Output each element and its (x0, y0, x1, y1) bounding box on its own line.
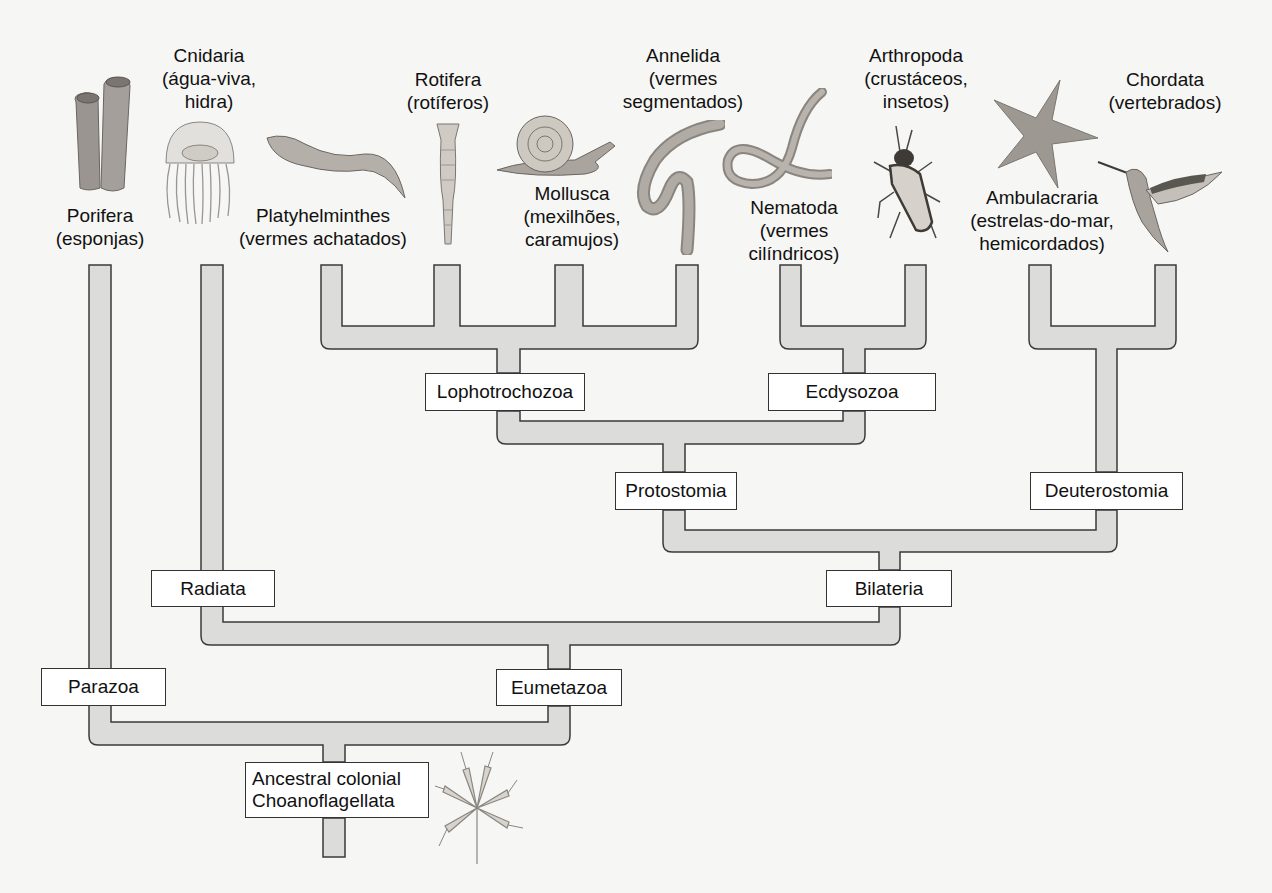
clade-label: Deuterostomia (1045, 480, 1169, 502)
branch-ecdysozoa-comb (780, 265, 926, 373)
taxon-name: Porifera (56, 205, 145, 228)
taxon-common-name: (vermes (749, 220, 840, 243)
taxon-label-ambulacraria: Ambulacraria (estrelas-do-mar, hemicorda… (970, 187, 1114, 255)
ancestor-label-line1: Ancestral colonial (252, 768, 401, 790)
clade-box-ancestor: Ancestral colonial Choanoflagellata (245, 762, 429, 818)
branch-bilateria-join (663, 510, 1117, 570)
clade-label: Bilateria (855, 578, 924, 600)
taxon-common-name: cilíndricos) (749, 243, 840, 266)
clade-box-lophotrochozoa: Lophotrochozoa (425, 373, 585, 411)
taxon-common-name: caramujos) (523, 229, 620, 252)
clade-label: Protostomia (625, 480, 726, 502)
jellyfish-icon (150, 118, 250, 228)
taxon-common-name: (água-viva, (162, 68, 256, 91)
taxon-label-porifera: Porifera (esponjas) (56, 205, 145, 251)
flatworm-icon (265, 130, 410, 210)
ancestor-label-line2: Choanoflagellata (252, 790, 395, 812)
taxon-common-name: (estrelas-do-mar, (970, 210, 1114, 233)
taxon-common-name: (mexilhões, (523, 206, 620, 229)
branch-protostomia-join (497, 411, 865, 472)
sponge-icon (68, 70, 143, 195)
taxon-common-name: (rotíferos) (407, 92, 489, 115)
clade-box-ecdysozoa: Ecdysozoa (768, 373, 936, 411)
roundworm-icon (722, 88, 832, 193)
snail-icon (495, 112, 630, 177)
branch-deuterostomia-comb (1029, 265, 1176, 472)
clade-box-deuterostomia: Deuterostomia (1030, 472, 1183, 510)
taxon-common-name: (vermes achatados) (239, 228, 407, 251)
taxon-label-nematoda: Nematoda (vermes cilíndricos) (749, 197, 840, 265)
hummingbird-icon (1096, 160, 1226, 255)
clade-box-protostomia: Protostomia (615, 472, 737, 510)
insect-icon (870, 122, 950, 247)
taxon-label-platyhelminthes: Platyhelminthes (vermes achatados) (239, 205, 407, 251)
taxon-name: Mollusca (523, 183, 620, 206)
taxon-name: Rotifera (407, 69, 489, 92)
taxon-name: Nematoda (749, 197, 840, 220)
clade-box-bilateria: Bilateria (826, 570, 952, 607)
taxon-name: Arthropoda (864, 45, 967, 68)
taxon-label-rotifera: Rotifera (rotíferos) (407, 69, 489, 115)
clade-label: Ecdysozoa (806, 381, 899, 403)
clade-label: Parazoa (68, 676, 139, 698)
choanoflagellate-icon (433, 750, 528, 865)
taxon-common-name: hemicordados) (970, 233, 1114, 256)
branch-root-stem (323, 818, 345, 857)
taxon-label-chordata: Chordata (vertebrados) (1109, 69, 1222, 115)
clade-label: Eumetazoa (511, 677, 607, 699)
taxon-common-name: hidra) (162, 91, 256, 114)
earthworm-icon (635, 120, 725, 255)
taxon-label-arthropoda: Arthropoda (crustáceos, insetos) (864, 45, 967, 113)
branch-lophotrochozoa-comb (321, 265, 698, 373)
clade-label: Lophotrochozoa (437, 381, 573, 403)
clade-box-radiata: Radiata (151, 570, 275, 607)
taxon-name: Chordata (1109, 69, 1222, 92)
taxon-common-name: (vertebrados) (1109, 92, 1222, 115)
taxon-common-name: insetos) (864, 91, 967, 114)
taxon-common-name: (esponjas) (56, 228, 145, 251)
clade-box-eumetazoa: Eumetazoa (496, 669, 622, 706)
clade-label: Radiata (180, 578, 246, 600)
starfish-icon (982, 76, 1102, 191)
taxon-common-name: (crustáceos, (864, 68, 967, 91)
taxon-label-cnidaria: Cnidaria (água-viva, hidra) (162, 45, 256, 113)
taxon-label-mollusca: Mollusca (mexilhões, caramujos) (523, 183, 620, 251)
taxon-name: Cnidaria (162, 45, 256, 68)
rotifer-icon (433, 120, 463, 250)
clade-box-parazoa: Parazoa (41, 668, 166, 706)
taxon-name: Annelida (623, 45, 743, 68)
